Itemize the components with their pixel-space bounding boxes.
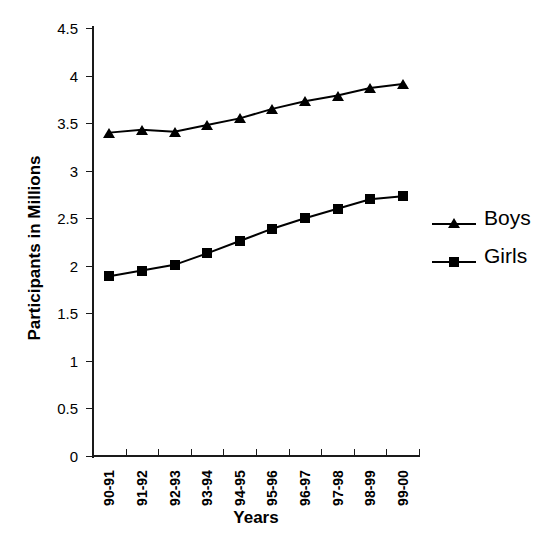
y-tick-label: 4.5 (57, 20, 78, 37)
y-tick-mark (86, 28, 93, 29)
data-point-triangle-icon (169, 127, 181, 137)
data-point-triangle-icon (299, 96, 311, 106)
x-tick-label: 99-00 (395, 462, 411, 514)
y-tick-mark (86, 76, 93, 77)
x-tick-label: 96-97 (297, 462, 313, 514)
y-tick-label: 2.5 (57, 210, 78, 227)
y-tick-label: 1.5 (57, 305, 78, 322)
series-line-girls (109, 196, 402, 276)
y-tick-label: 4 (70, 68, 78, 85)
y-tick-label: 3 (70, 163, 78, 180)
data-point-triangle-icon (136, 125, 148, 135)
x-tick-label: 91-92 (134, 462, 150, 514)
legend-label-girls: Girls (484, 244, 527, 268)
x-tick-mark (419, 449, 420, 457)
line-chart: Participants in Millions Years 00.511.52… (0, 0, 555, 548)
y-tick-label: 2 (70, 258, 78, 275)
y-tick-mark (86, 313, 93, 314)
x-tick-label: 97-98 (330, 462, 346, 514)
data-point-square-icon (170, 260, 180, 270)
y-tick-label: 0 (70, 448, 78, 465)
data-point-triangle-icon (103, 128, 115, 138)
x-tick-label: 93-94 (199, 462, 215, 514)
data-point-square-icon (202, 248, 212, 258)
legend-marker-triangle-icon (432, 215, 476, 233)
y-tick-label: 1 (70, 353, 78, 370)
y-tick-mark (86, 456, 93, 457)
data-point-square-icon (267, 224, 277, 234)
data-point-square-icon (235, 236, 245, 246)
data-point-triangle-icon (266, 104, 278, 114)
data-point-square-icon (365, 194, 375, 204)
y-tick-mark (86, 123, 93, 124)
x-tick-label: 92-93 (167, 462, 183, 514)
y-tick-label: 3.5 (57, 115, 78, 132)
y-tick-mark (86, 171, 93, 172)
y-tick-mark (86, 361, 93, 362)
data-point-triangle-icon (364, 83, 376, 93)
data-point-triangle-icon (234, 113, 246, 123)
x-tick-label: 98-99 (362, 462, 378, 514)
y-tick-mark (86, 408, 93, 409)
x-tick-label: 94-95 (232, 462, 248, 514)
data-point-triangle-icon (397, 79, 409, 89)
plot-area (93, 28, 419, 456)
data-point-square-icon (300, 213, 310, 223)
y-tick-label: 0.5 (57, 400, 78, 417)
data-point-triangle-icon (201, 120, 213, 130)
series-line-boys (109, 84, 402, 133)
data-point-square-icon (333, 204, 343, 214)
legend-label-boys: Boys (484, 206, 531, 230)
data-point-square-icon (104, 271, 114, 281)
y-tick-mark (86, 266, 93, 267)
y-tick-mark (86, 218, 93, 219)
x-tick-label: 95-96 (264, 462, 280, 514)
x-tick-label: 90-91 (101, 462, 117, 514)
data-point-square-icon (137, 266, 147, 276)
data-point-triangle-icon (332, 91, 344, 101)
data-point-square-icon (398, 191, 408, 201)
legend-marker-square-icon (432, 253, 476, 271)
